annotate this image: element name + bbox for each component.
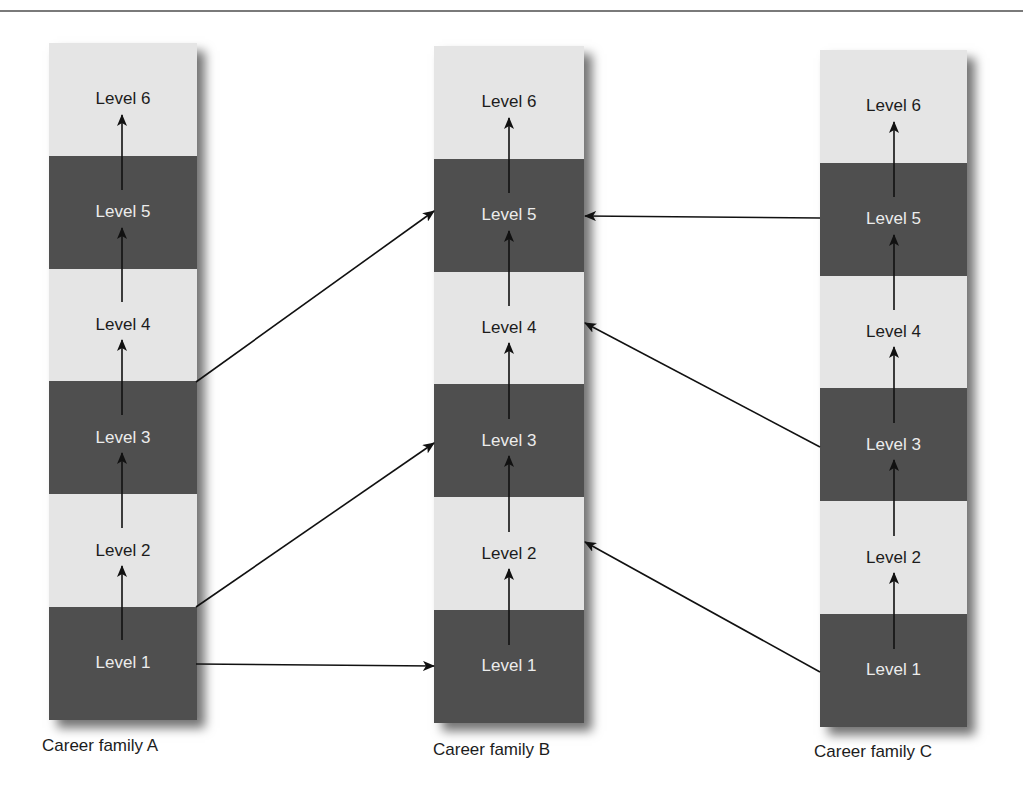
family-a-level-6: Level 6: [49, 43, 197, 156]
career-family-a-column: Level 6 Level 5 Level 4 Level 3 Level 2 …: [49, 43, 197, 720]
level-label: Level 2: [96, 541, 151, 561]
level-label: Level 5: [96, 202, 151, 222]
level-label: Level 2: [866, 548, 921, 568]
level-label: Level 1: [482, 656, 537, 676]
arrow-c-level1-to-b-level2: [585, 542, 820, 672]
family-b-level-3: Level 3: [434, 384, 584, 497]
level-label: Level 5: [866, 209, 921, 229]
level-label: Level 1: [96, 653, 151, 673]
career-family-c-column: Level 6 Level 5 Level 4 Level 3 Level 2 …: [820, 50, 967, 727]
level-label: Level 4: [482, 318, 537, 338]
family-a-level-2: Level 2: [49, 494, 197, 607]
career-family-b-column: Level 6 Level 5 Level 4 Level 3 Level 2 …: [434, 46, 584, 723]
family-b-level-4: Level 4: [434, 272, 584, 385]
family-b-level-2: Level 2: [434, 497, 584, 610]
family-a-level-1: Level 1: [49, 607, 197, 720]
level-label: Level 6: [482, 92, 537, 112]
level-label: Level 6: [96, 89, 151, 109]
family-b-level-6: Level 6: [434, 46, 584, 159]
family-c-level-3: Level 3: [820, 388, 967, 501]
level-label: Level 2: [482, 544, 537, 564]
family-c-level-5: Level 5: [820, 163, 967, 276]
arrow-c-level5-to-b-level5: [585, 216, 820, 218]
level-label: Level 4: [96, 315, 151, 335]
level-label: Level 5: [482, 205, 537, 225]
level-label: Level 3: [866, 435, 921, 455]
family-c-level-1: Level 1: [820, 614, 967, 727]
career-family-b-caption: Career family B: [433, 740, 550, 760]
family-b-level-5: Level 5: [434, 159, 584, 272]
arrow-a-level3-to-b-level5: [196, 211, 434, 382]
career-family-c-caption: Career family C: [814, 742, 932, 762]
arrow-c-level3-to-b-level4: [585, 323, 820, 447]
level-label: Level 3: [96, 428, 151, 448]
family-b-level-1: Level 1: [434, 610, 584, 723]
level-label: Level 6: [866, 96, 921, 116]
level-label: Level 1: [866, 660, 921, 680]
family-c-level-2: Level 2: [820, 501, 967, 614]
career-family-a-caption: Career family A: [42, 736, 158, 756]
family-a-level-4: Level 4: [49, 269, 197, 382]
family-c-level-4: Level 4: [820, 276, 967, 389]
family-c-level-6: Level 6: [820, 50, 967, 163]
level-label: Level 4: [866, 322, 921, 342]
family-a-level-3: Level 3: [49, 381, 197, 494]
arrow-a-level1-to-b-level1: [196, 664, 434, 666]
level-label: Level 3: [482, 431, 537, 451]
arrow-a-level1-to-b-level3: [196, 443, 434, 607]
top-rule: [0, 10, 1023, 12]
family-a-level-5: Level 5: [49, 156, 197, 269]
